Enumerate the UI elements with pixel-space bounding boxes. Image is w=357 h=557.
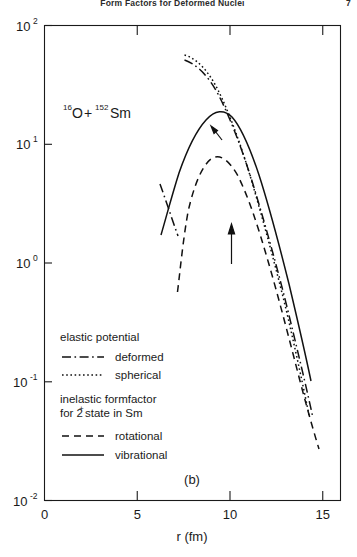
system-label-el2: Sm: [110, 105, 131, 121]
system-label: 16 O + 152 Sm: [63, 103, 131, 121]
system-label-sup2: 152: [95, 103, 109, 112]
x-axis-label: r (fm): [176, 529, 207, 544]
y-tick-exp-0_01: -2: [30, 491, 38, 501]
y-tick-label-10: 10: [16, 137, 30, 152]
figure-page: Form Factors for Deformed Nuclei 7 10 2 …: [0, 0, 357, 557]
legend-label-rotational: rotational: [115, 430, 162, 442]
series-deformed: [185, 60, 314, 418]
y-tick-exp-10: 1: [33, 134, 38, 144]
panel-label: (b): [184, 472, 200, 487]
x-tick-label-5: 5: [134, 507, 141, 522]
system-label-el1: O: [72, 105, 83, 121]
series-vibrational: [161, 112, 311, 381]
legend-group1-title: elastic potential: [60, 331, 139, 343]
x-axis-tick-labels: 0 5 10 15: [41, 507, 330, 522]
legend-group2-line2-b: state in Sm: [85, 407, 143, 419]
x-tick-label-10: 10: [223, 507, 237, 522]
x-tick-label-0: 0: [41, 507, 48, 522]
y-tick-label-0_01: 10: [13, 494, 27, 509]
x-tick-label-15: 15: [316, 507, 330, 522]
y-axis-ticks: [45, 26, 53, 501]
y-axis-tick-labels: 10 2 10 1 10 0 10 -1 10 -2: [13, 16, 38, 509]
plot-frame: [45, 26, 341, 501]
y-tick-label-100: 10: [16, 19, 30, 34]
legend: elastic potential deformed spherical ine…: [60, 331, 167, 461]
legend-group2-title-line1: inelastic formfactor: [60, 393, 157, 405]
y-tick-exp-100: 2: [33, 16, 38, 26]
legend-group2-line2-sup: +: [79, 404, 84, 413]
arrow-lower: [228, 224, 234, 264]
arrow-upper: [211, 126, 222, 140]
y-tick-exp-0_1: -1: [30, 372, 38, 382]
y-tick-exp-1: 0: [33, 253, 38, 263]
legend-label-deformed: deformed: [115, 351, 164, 363]
y-tick-label-1: 10: [16, 256, 30, 271]
system-label-plus: +: [84, 105, 92, 121]
series-rotational: [178, 157, 320, 449]
legend-group2-title-line2: for 2 + state in Sm: [60, 404, 143, 419]
legend-label-spherical: spherical: [115, 369, 161, 381]
plot-canvas: 10 2 10 1 10 0 10 -1 10 -2 0 5 10 15 r: [0, 0, 357, 557]
legend-label-vibrational: vibrational: [115, 449, 167, 461]
y-tick-label-0_1: 10: [13, 375, 27, 390]
series-spherical: [185, 55, 310, 415]
x-axis-ticks: [137, 26, 323, 501]
